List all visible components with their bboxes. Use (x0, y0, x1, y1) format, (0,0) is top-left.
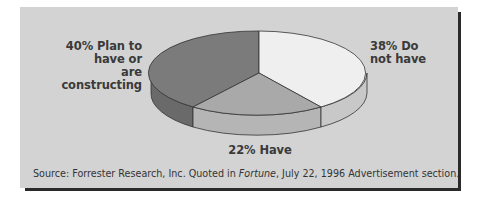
source-note: Source: Forrester Research, Inc. Quoted … (33, 168, 459, 179)
label-plan-line2: are constructing (40, 66, 142, 92)
label-donot-line2: not have (370, 53, 450, 66)
label-plan-line1: 40% Plan to have or (40, 40, 142, 66)
label-plan: 40% Plan to have or are constructing (40, 40, 142, 92)
label-have: 22% Have (200, 144, 320, 157)
source-prefix: Source: Forrester Research, Inc. Quoted … (33, 168, 239, 179)
label-donot: 38% Do not have (370, 40, 450, 66)
source-publication: Fortune (239, 168, 276, 179)
source-suffix: , July 22, 1996 Advertisement section. (276, 168, 459, 179)
